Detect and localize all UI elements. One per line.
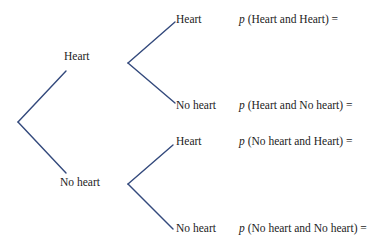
node-label-level1-noheart: No heart	[60, 176, 100, 189]
branch-root-to-noheart	[18, 122, 66, 173]
probability-text-noheart-noheart: (No heart and No heart) =	[245, 222, 367, 234]
node-label-level2-heart-heart: Heart	[176, 13, 202, 26]
branch-heart-to-noheart	[128, 63, 175, 103]
probability-expression-noheart-heart: p (No heart and Heart) =	[239, 135, 352, 148]
probability-text-heart-heart: (Heart and Heart) =	[245, 13, 338, 25]
branch-heart-to-heart	[128, 22, 175, 63]
node-label-level2-heart-noheart: No heart	[176, 99, 216, 112]
node-label-level2-noheart-noheart: No heart	[176, 222, 216, 235]
node-label-level1-heart: Heart	[64, 50, 90, 63]
branch-noheart-to-noheart	[128, 184, 173, 229]
probability-expression-noheart-noheart: p (No heart and No heart) =	[239, 222, 367, 235]
probability-expression-heart-noheart: p (Heart and No heart) =	[239, 99, 352, 112]
tree-branch-lines	[0, 0, 391, 250]
branch-root-to-heart	[18, 71, 66, 122]
probability-text-noheart-heart: (No heart and Heart) =	[245, 135, 353, 147]
branch-noheart-to-heart	[128, 145, 173, 184]
probability-tree-diagram: Heart No heart Heart No heart Heart No h…	[0, 0, 391, 250]
probability-expression-heart-heart: p (Heart and Heart) =	[239, 13, 338, 26]
probability-text-heart-noheart: (Heart and No heart) =	[245, 99, 353, 111]
node-label-level2-noheart-heart: Heart	[176, 135, 202, 148]
